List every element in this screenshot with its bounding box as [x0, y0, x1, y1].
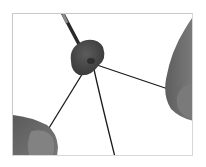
- cords: [49, 63, 177, 156]
- bead: [71, 40, 105, 75]
- photo-illustration: [13, 14, 193, 156]
- right-hand: [165, 14, 193, 121]
- photo-frame: [12, 13, 193, 156]
- needle: [63, 14, 81, 48]
- left-hand: [13, 115, 58, 156]
